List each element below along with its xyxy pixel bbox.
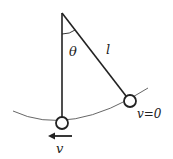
velocity-top-label: v=0	[137, 107, 162, 121]
bob-bottom	[56, 117, 68, 129]
velocity-bottom-label: v	[56, 141, 64, 156]
angle-label: θ	[69, 44, 77, 59]
velocity-arrow-head-icon	[48, 133, 55, 140]
angle-arc	[62, 30, 75, 34]
pendulum-diagram: θ l v=0 v	[0, 0, 173, 159]
bob-displaced	[124, 95, 136, 107]
length-label: l	[106, 42, 110, 57]
